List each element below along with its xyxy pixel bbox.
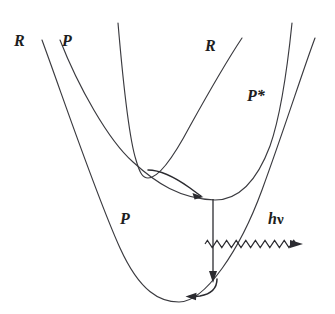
- curve-p-ground: [42, 38, 315, 302]
- photon-emission-wave: [205, 240, 296, 247]
- label-p-lower: P: [120, 211, 130, 227]
- diagram-canvas: [0, 0, 335, 314]
- label-h-nu-h: h: [268, 210, 277, 227]
- label-p-left: P: [62, 33, 72, 49]
- label-r-right: R: [205, 38, 216, 54]
- crossing-transition-arrow: [148, 170, 201, 196]
- photon-emission-arrowhead: [290, 240, 303, 248]
- potential-energy-diagram: R P R P* P hν: [0, 0, 335, 314]
- curve-p-star-excited: [60, 23, 292, 200]
- label-r-left: R: [14, 33, 25, 49]
- curve-r-reactant: [118, 23, 242, 178]
- label-h-nu: hν: [268, 211, 284, 227]
- label-p-star: P*: [247, 88, 265, 104]
- label-h-nu-nu: ν: [277, 211, 284, 227]
